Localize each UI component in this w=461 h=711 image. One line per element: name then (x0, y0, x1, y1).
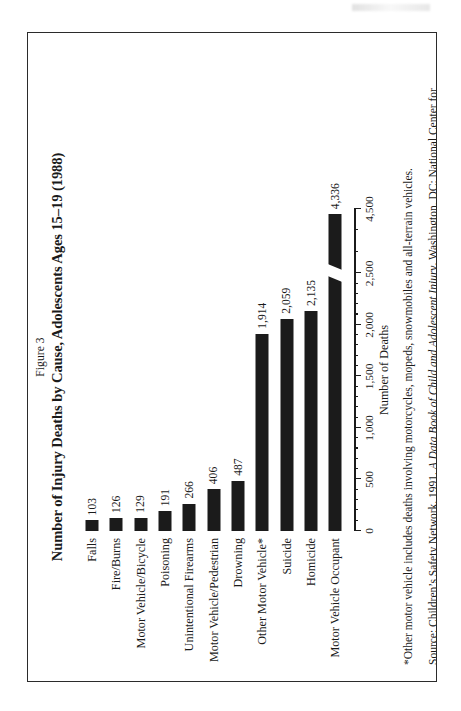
axis-tick-label: 2,000 (363, 312, 375, 338)
axis-tick-minor (354, 229, 358, 230)
category-label: Motor Vehicle/Pedestrian (208, 538, 220, 662)
bar-group: 191 (159, 489, 172, 531)
bar-row: Other Motor Vehicle*1,914 (250, 101, 274, 531)
axis-tick-major (354, 375, 361, 376)
source-prefix: Source: Children’s Safety Network. 1991. (427, 469, 437, 665)
bar (329, 214, 342, 531)
x-axis: 05001,0001,5002,0002,5004,500 (354, 209, 356, 531)
bar (134, 518, 147, 531)
bar (280, 319, 293, 531)
bar-value-label: 487 (232, 458, 244, 475)
figure-number: Figure 3 (34, 33, 46, 681)
bar-value-label: 126 (111, 496, 123, 513)
category-label: Falls (86, 538, 98, 562)
axis-tick-minor (354, 520, 358, 521)
axis-tick-minor (354, 499, 358, 500)
axis-tick-label: 1,500 (363, 364, 375, 390)
axis-tick-minor (354, 447, 358, 448)
axis-tick-minor (354, 417, 358, 418)
axis-tick-minor (354, 344, 358, 345)
axis-tick-minor (354, 489, 358, 490)
bar (304, 311, 317, 531)
bar-value-label: 2,135 (305, 280, 317, 306)
axis-tick-label: 0 (363, 528, 375, 534)
bar (110, 518, 123, 531)
bar (183, 504, 196, 531)
axis-tick-minor (354, 509, 358, 510)
bar (159, 511, 172, 531)
bar (86, 520, 99, 531)
axis-tick-major (354, 208, 361, 209)
axis-tick-label: 500 (363, 471, 375, 488)
scan-artifact (352, 4, 430, 11)
source-title-italic: A Data Book of Child and Adolescent Inju… (427, 266, 437, 470)
axis-tick-minor (354, 334, 358, 335)
bar-value-label: 103 (86, 498, 98, 515)
axis-tick-label: 4,500 (363, 196, 375, 222)
axis-tick-minor (354, 355, 358, 356)
axis-tick-minor (354, 396, 358, 397)
axis-tick-major (354, 272, 361, 273)
axis-tick-label: 2,500 (363, 261, 375, 287)
bar-group: 1,914 (256, 303, 269, 531)
axis-tick-minor (354, 437, 358, 438)
bar-value-label: 266 (184, 481, 196, 498)
bar-value-label: 2,059 (281, 288, 293, 314)
bar (231, 481, 244, 531)
bar-value-label: 4,336 (329, 183, 341, 209)
axis-tick-minor (354, 251, 358, 252)
bar-group: 126 (110, 496, 123, 531)
title-block: Figure 3 Number of Injury Deaths by Caus… (34, 33, 66, 681)
bar-row: Fire/Burns126 (104, 101, 128, 531)
axis-tick-minor (354, 458, 358, 459)
bar-group: 2,135 (304, 280, 317, 531)
axis-tick-minor (354, 386, 358, 387)
axis-tick-major (354, 478, 361, 479)
axis-tick-minor (354, 293, 358, 294)
bar (256, 334, 269, 531)
bar-row: Falls103 (80, 101, 104, 531)
category-label: Poisoning (159, 538, 171, 587)
chart-plot-area: Falls103Fire/Burns126Motor Vehicle/Bicyc… (80, 101, 380, 531)
bar-row: Motor Vehicle/Pedestrian406 (201, 101, 225, 531)
axis-tick-minor (354, 313, 358, 314)
bar-group: 4,336 (329, 183, 342, 531)
bar-row: Homicide2,135 (299, 101, 323, 531)
bar (207, 489, 220, 531)
axis-tick-major (354, 427, 361, 428)
source-text: Source: Children’s Safety Network. 1991.… (425, 49, 437, 665)
x-axis-title: Number of Deaths (377, 209, 392, 531)
bar-group: 487 (231, 458, 244, 531)
category-label: Suicide (280, 538, 292, 575)
figure-frame: Figure 3 Number of Injury Deaths by Caus… (27, 32, 437, 682)
category-label: Homicide (305, 538, 317, 586)
notes-block: *Other motor vehicle includes deaths inv… (400, 49, 437, 665)
category-label: Fire/Burns (110, 538, 122, 590)
category-label: Other Motor Vehicle* (256, 538, 268, 645)
bar-row: Unintentional Firearms266 (177, 101, 201, 531)
bar-group: 266 (183, 481, 196, 531)
category-label: Motor Vehicle/Bicycle (135, 538, 147, 648)
figure-title: Number of Injury Deaths by Cause, Adoles… (49, 33, 66, 681)
bar-row: Suicide2,059 (274, 101, 298, 531)
axis-tick-minor (354, 468, 358, 469)
bar-row: Motor Vehicle/Bicycle129 (129, 101, 153, 531)
bar-value-label: 406 (208, 467, 220, 484)
axis-tick-minor (354, 406, 358, 407)
category-label: Motor Vehicle Occupant (329, 538, 341, 658)
bar-row: Drowning487 (226, 101, 250, 531)
axis-tick-major (354, 530, 361, 531)
axis-tick-minor (354, 303, 358, 304)
axis-tick-minor (354, 283, 358, 284)
axis-tick-label: 1,000 (363, 415, 375, 441)
category-label: Drowning (232, 538, 244, 587)
axis-tick-minor (354, 365, 358, 366)
bar-group: 129 (134, 495, 147, 531)
category-label: Unintentional Firearms (183, 538, 195, 651)
bar-value-label: 1,914 (256, 303, 268, 329)
bar-row: Poisoning191 (153, 101, 177, 531)
axis-tick-major (354, 324, 361, 325)
rotated-page-stage: Figure 3 Number of Injury Deaths by Caus… (28, 33, 436, 681)
bar-row: Motor Vehicle Occupant4,336 (323, 101, 347, 531)
bar-group: 2,059 (280, 288, 293, 531)
